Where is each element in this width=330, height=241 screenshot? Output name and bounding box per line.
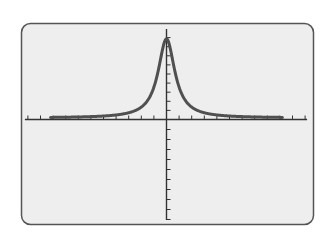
graph-plot — [0, 0, 330, 241]
screen-border — [22, 24, 314, 225]
calculator-screen — [0, 0, 330, 241]
